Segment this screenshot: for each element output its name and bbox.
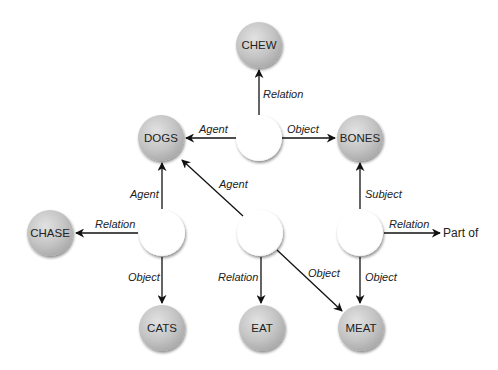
- concept-label-bones: BONES: [340, 132, 381, 144]
- edge-label-p4-bones: Subject: [365, 188, 403, 200]
- proposition-node-4: [337, 210, 383, 256]
- concept-label-chase: CHASE: [30, 227, 70, 239]
- concept-nodes: CHEW DOGS BONES CHASE CATS EAT MEAT: [27, 22, 384, 351]
- part-of-label: Part of: [443, 226, 479, 240]
- concept-label-meat: MEAT: [345, 322, 376, 334]
- edge-label-p1-chew: Relation: [263, 88, 303, 100]
- edge-label-p4-partof: Relation: [389, 218, 429, 230]
- concept-node-bones: BONES: [337, 115, 383, 161]
- concept-label-cats: CATS: [147, 322, 177, 334]
- edge-label-p2-chase: Relation: [95, 218, 135, 230]
- semantic-network-diagram: Relation Agent Object Agent Relation Obj…: [0, 0, 498, 370]
- edge-label-p3-eat: Relation: [218, 271, 258, 283]
- concept-node-meat: MEAT: [338, 305, 384, 351]
- edge-label-p4-meat: Object: [365, 271, 398, 283]
- edge-label-p2-cats: Object: [128, 271, 161, 283]
- edge-p3-meat: [277, 250, 342, 311]
- concept-label-chew: CHEW: [241, 39, 276, 51]
- proposition-node-2: [139, 210, 185, 256]
- proposition-node-3: [237, 210, 283, 256]
- concept-node-chase: CHASE: [27, 210, 73, 256]
- concept-node-cats: CATS: [139, 305, 185, 351]
- edge-label-p2-dogs: Agent: [129, 188, 160, 200]
- edge-label-p1-bones: Object: [287, 123, 320, 135]
- concept-label-eat: EAT: [251, 322, 273, 334]
- concept-node-chew: CHEW: [236, 22, 282, 68]
- edge-label-p3-dogs: Agent: [218, 178, 249, 190]
- edge-label-p3-meat: Object: [308, 267, 341, 279]
- concept-node-dogs: DOGS: [138, 115, 184, 161]
- concept-label-dogs: DOGS: [144, 132, 178, 144]
- concept-node-eat: EAT: [239, 305, 285, 351]
- proposition-node-1: [236, 115, 282, 161]
- edge-label-p1-dogs: Agent: [198, 123, 229, 135]
